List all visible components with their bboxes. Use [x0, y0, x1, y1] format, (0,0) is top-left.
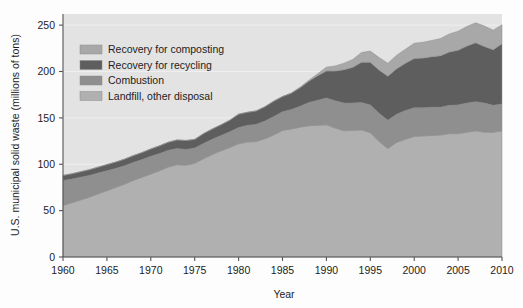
x-tick-label: 1990 [315, 264, 339, 276]
y-axis-title: U.S. municipal solid waste (millions of … [9, 34, 21, 236]
legend-label: Combustion [108, 74, 164, 86]
x-tick-label: 1985 [271, 264, 295, 276]
x-tick-label: 1995 [359, 264, 383, 276]
legend-swatch [80, 76, 102, 85]
y-tick-label: 200 [37, 65, 55, 77]
y-tick-label: 150 [37, 112, 55, 124]
x-axis-ticks: 1960196519701975198019851990199520002005… [51, 257, 514, 276]
x-tick-label: 2000 [403, 264, 427, 276]
y-tick-label: 250 [37, 19, 55, 31]
x-tick-label: 1980 [227, 264, 251, 276]
y-tick-label: 0 [49, 251, 55, 263]
legend-label: Recovery for recycling [108, 59, 212, 71]
legend-swatch [80, 92, 102, 101]
y-axis-ticks: 050100150200250 [37, 19, 63, 263]
x-axis-title: Year [273, 288, 295, 300]
legend-swatch [80, 45, 102, 54]
y-tick-label: 100 [37, 158, 55, 170]
y-tick-label: 50 [43, 204, 55, 216]
x-tick-label: 2010 [490, 264, 514, 276]
x-tick-label: 1970 [139, 264, 163, 276]
legend-swatch [80, 61, 102, 70]
x-tick-label: 1965 [95, 264, 119, 276]
stacked-area-chart: 050100150200250 196019651970197519801985… [0, 0, 523, 308]
x-tick-label: 1975 [183, 264, 207, 276]
legend-label: Recovery for composting [108, 43, 224, 55]
x-tick-label: 1960 [51, 264, 75, 276]
x-tick-label: 2005 [446, 264, 470, 276]
chart-figure: 050100150200250 196019651970197519801985… [0, 0, 523, 308]
legend-label: Landfill, other disposal [108, 90, 212, 102]
